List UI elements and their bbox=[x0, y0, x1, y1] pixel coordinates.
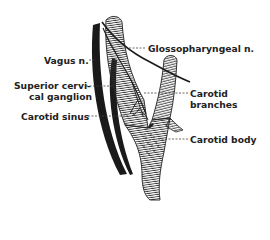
label-carotid-body: Carotid body bbox=[190, 134, 257, 145]
label-glossopharyngeal-nerve: Glossopharyngeal n. bbox=[148, 43, 254, 54]
label-carotid-branches-line1: Carotid bbox=[190, 88, 228, 99]
label-carotid-branches-line2: branches bbox=[190, 99, 238, 110]
label-superior-cervical-ganglion-line2: cal ganglion bbox=[29, 91, 92, 102]
label-vagus-nerve: Vagus n. bbox=[44, 55, 89, 66]
label-superior-cervical-ganglion-line1: Superior cervi- bbox=[14, 80, 91, 91]
common-carotid-artery bbox=[125, 118, 170, 200]
label-carotid-sinus: Carotid sinus bbox=[21, 111, 89, 122]
